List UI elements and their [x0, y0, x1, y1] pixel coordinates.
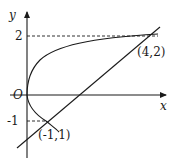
y-tick-neg1: -1 — [7, 114, 19, 128]
point-label-neg1-1: (-1,1) — [38, 128, 71, 142]
y-tick-2: 2 — [15, 29, 23, 43]
parabola-curve — [27, 34, 158, 95]
point-label-4-2: (4,2) — [137, 45, 165, 59]
origin-label: O — [13, 88, 23, 102]
x-axis-label: x — [160, 99, 167, 113]
coordinate-diagram: y x O 2 -1 (4,2) (-1,1) — [0, 0, 176, 167]
y-axis-label: y — [8, 8, 16, 22]
